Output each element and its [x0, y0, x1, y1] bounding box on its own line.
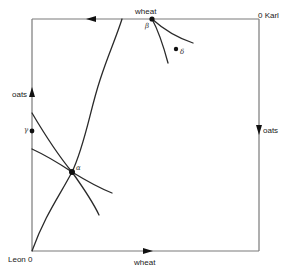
arrow-right-icon — [143, 248, 153, 254]
karl-origin-label: 0 Karl — [258, 12, 279, 20]
point-delta — [174, 47, 178, 51]
delta-label: δ — [180, 49, 184, 56]
arrow-down-icon — [256, 125, 262, 135]
point-gamma — [30, 129, 35, 134]
arrow-up-icon — [29, 87, 35, 97]
beta-label: β — [145, 23, 149, 30]
alpha-label: α — [76, 165, 81, 172]
bottom-wheat-label: wheat — [134, 259, 155, 267]
right-oats-label: oats — [263, 127, 278, 135]
leon-origin-label: Leon 0 — [8, 256, 32, 264]
point-beta — [149, 16, 154, 21]
point-alpha — [69, 169, 75, 175]
edgeworth-box-diagram — [0, 0, 292, 278]
left-oats-label: oats — [12, 91, 27, 99]
indifference-curve-leon-alpha — [32, 113, 99, 215]
axis-arrows — [29, 16, 262, 254]
box-frame — [32, 19, 259, 251]
arrow-left-icon — [86, 16, 96, 22]
top-wheat-label: wheat — [135, 8, 156, 16]
gamma-label: γ — [24, 127, 28, 134]
